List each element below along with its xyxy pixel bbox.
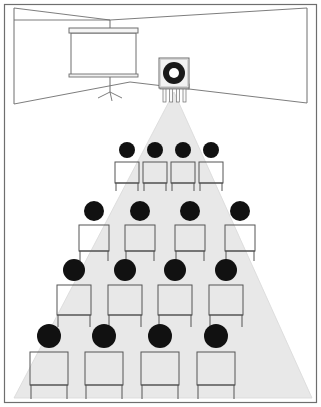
audience-head [84,201,104,221]
projection-room-scene [0,0,321,407]
projection-screen-roller-bar [69,28,138,33]
projector-stand-leg [170,88,173,102]
audience-head [63,259,85,281]
projector-stand-leg [176,88,179,102]
projection-screen-surface [71,33,136,76]
audience-head [204,324,228,348]
audience-head [114,259,136,281]
audience-head [230,201,250,221]
projector-stand-leg [183,88,186,102]
audience-head [175,142,191,158]
projector-stand-leg [163,88,166,102]
audience-head [92,324,116,348]
scene-svg [0,0,321,407]
audience-head [37,324,61,348]
projector-lens-glass [169,68,179,78]
audience-head [148,324,172,348]
audience-head [203,142,219,158]
audience-head [130,201,150,221]
audience-head [119,142,135,158]
audience-head [164,259,186,281]
audience-head [180,201,200,221]
projection-screen-bottom-bar [69,74,138,77]
audience-head [215,259,237,281]
audience-head [147,142,163,158]
